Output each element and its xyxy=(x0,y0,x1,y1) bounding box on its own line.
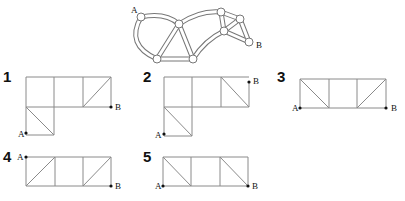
option-label-b: B xyxy=(253,76,259,86)
reference-label-b: B xyxy=(256,40,262,50)
option-label-b: B xyxy=(115,102,121,112)
puzzle-diagram: A B 1 A B 2 xyxy=(0,0,405,201)
option-label-a: A xyxy=(292,103,299,113)
option-label-a: A xyxy=(18,129,25,139)
option-label-b: B xyxy=(252,181,258,191)
option-2[interactable]: 2 A B xyxy=(143,68,259,140)
option-label-b: B xyxy=(391,103,397,113)
option-3[interactable]: 3 A B xyxy=(277,68,397,113)
option-label-a: A xyxy=(17,152,24,162)
option-label-b: B xyxy=(115,181,121,191)
reference-label-a: A xyxy=(131,5,138,15)
option-label-a: A xyxy=(155,130,162,140)
option-number: 5 xyxy=(143,148,151,165)
option-label-a: A xyxy=(155,181,162,191)
option-number: 4 xyxy=(3,148,12,165)
option-number: 2 xyxy=(143,68,151,85)
option-5[interactable]: 5 A B xyxy=(143,148,258,191)
option-number: 1 xyxy=(3,68,11,85)
option-1[interactable]: 1 A B xyxy=(3,68,121,139)
option-number: 3 xyxy=(277,68,285,85)
option-4[interactable]: 4 A B xyxy=(3,148,121,191)
reference-figure: A B xyxy=(131,5,262,63)
